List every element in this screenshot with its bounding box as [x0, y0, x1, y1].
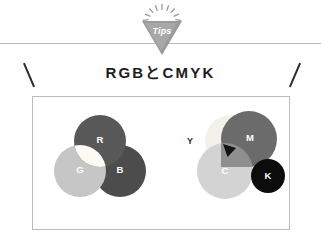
tips-triangle-icon: Tips — [142, 21, 182, 57]
label-magenta: M — [243, 133, 257, 143]
rgb-venn-diagram: R G B — [47, 97, 167, 231]
cmyk-venn-diagram: Y M C K — [183, 97, 291, 231]
page-root: Tips RGBとCMYK R G B Y M — [0, 0, 321, 244]
label-key-black: K — [261, 171, 275, 181]
label-cyan: C — [218, 166, 232, 176]
label-yellow: Y — [187, 136, 193, 146]
tips-label: Tips — [142, 26, 182, 36]
page-title: RGBとCMYK — [0, 64, 321, 82]
tips-badge: Tips — [140, 4, 184, 54]
label-green: G — [73, 165, 87, 175]
label-blue: B — [113, 165, 127, 175]
content-panel: R G B Y M C K — [32, 96, 290, 230]
label-red: R — [93, 135, 107, 145]
